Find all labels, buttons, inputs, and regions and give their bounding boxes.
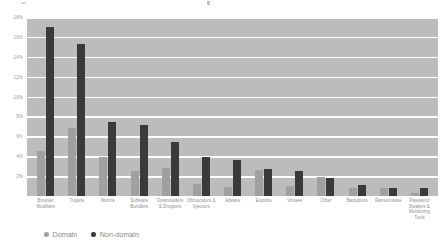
bar-group [61,17,92,196]
y-axis-tick-label: 10% [14,94,24,99]
y-axis-tick-label: 8% [16,114,23,119]
legend-item[interactable]: Non-domain [91,230,139,239]
bar-domain [349,188,357,196]
bar-domain [131,171,139,196]
y-axis-tick-label: 12% [14,74,24,79]
x-axis-tick-label: Ransomware [373,198,404,242]
x-axis-tick-label: Downloaders & Droppers [155,198,186,242]
bar-group [217,17,248,196]
y-axis-tick-label: 2% [16,174,23,179]
y-axis-tick-label: 4% [16,154,23,159]
bar-domain [99,157,107,196]
bar-domain [162,168,170,196]
bar-nondomain [264,169,272,196]
bar-domain [224,187,232,196]
legend-swatch-icon [44,232,49,237]
bar-nondomain [295,171,303,196]
bar-group [30,17,61,196]
x-axis-tick-label: Backdoors [342,198,373,242]
y-axis-tick-label: 6% [16,134,23,139]
y-axis-tick-label: 16% [14,34,24,39]
x-axis-tick-label: Exploits [248,198,279,242]
legend-label: Domain [53,230,78,239]
bar-group [310,17,341,196]
bar-domain [286,186,294,196]
x-axis-tick-label: Obfuscators & Injectors [186,198,217,242]
bar-group [279,17,310,196]
bar-nondomain [171,142,179,196]
legend-item[interactable]: Domain [44,230,77,239]
bar-chart: 18%16%14%12%10%8%6%4%2% Browser Modifier… [0,0,448,249]
bar-nondomain [202,157,210,196]
x-axis-tick-label: Other [310,198,341,242]
bar-group [404,17,435,196]
bar-domain [411,193,419,196]
y-axis-tick-label: 14% [14,54,24,59]
clipped-title-artifact [0,0,448,9]
y-axis-tick-label: 18% [14,15,24,20]
plot-area [27,17,438,196]
bar-group [155,17,186,196]
bar-nondomain [108,122,116,196]
bar-group [92,17,123,196]
bar-nondomain [77,44,85,196]
bar-group [373,17,404,196]
artifact-mark-center [207,1,210,5]
bar-domain [68,128,76,196]
chart-legend: DomainNon-domain [44,230,139,239]
legend-swatch-icon [91,232,96,237]
bar-domain [193,184,201,196]
x-axis-tick-label: Password Stealers & Monitoring Tools [404,198,435,242]
bar-group [123,17,154,196]
bar-nondomain [326,178,334,196]
bar-group [248,17,279,196]
x-axis-tick-label: Viruses [279,198,310,242]
bar-group [186,17,217,196]
bar-nondomain [420,188,428,196]
bar-domain [380,188,388,196]
y-axis: 18%16%14%12%10%8%6%4%2% [0,0,27,249]
bar-nondomain [389,188,397,196]
bar-domain [317,177,325,196]
bars-layer [27,17,438,196]
bar-nondomain [233,160,241,196]
bar-nondomain [358,185,366,196]
legend-label: Non-domain [100,230,139,239]
x-axis-tick-label: Adware [217,198,248,242]
bar-nondomain [46,27,54,196]
bar-domain [37,151,45,196]
bar-domain [255,170,263,196]
bar-group [342,17,373,196]
bar-nondomain [140,125,148,196]
